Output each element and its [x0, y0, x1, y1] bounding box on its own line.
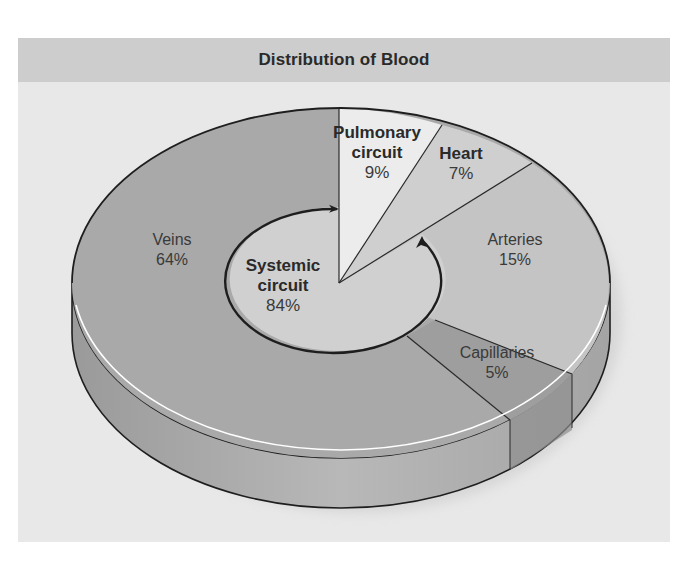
label-veins-value: 64%	[152, 250, 191, 270]
label-pulmonary-line1: Pulmonary	[333, 123, 421, 143]
label-systemic-line1: Systemic	[246, 256, 321, 276]
label-systemic-value: 84%	[246, 296, 321, 316]
label-heart-name: Heart	[439, 144, 482, 164]
label-pulmonary: Pulmonary circuit 9%	[333, 123, 421, 183]
label-heart: Heart 7%	[439, 144, 482, 184]
label-capillaries-name: Capillaries	[460, 343, 535, 363]
label-pulmonary-line2: circuit	[333, 143, 421, 163]
label-systemic-line2: circuit	[246, 276, 321, 296]
label-veins: Veins 64%	[152, 230, 191, 270]
label-capillaries-value: 5%	[460, 363, 535, 383]
label-heart-value: 7%	[439, 164, 482, 184]
label-capillaries: Capillaries 5%	[460, 343, 535, 383]
pie-chart	[0, 0, 692, 571]
label-pulmonary-value: 9%	[333, 163, 421, 183]
label-arteries: Arteries 15%	[487, 230, 542, 270]
label-arteries-value: 15%	[487, 250, 542, 270]
label-arteries-name: Arteries	[487, 230, 542, 250]
label-systemic: Systemic circuit 84%	[246, 256, 321, 316]
label-veins-name: Veins	[152, 230, 191, 250]
